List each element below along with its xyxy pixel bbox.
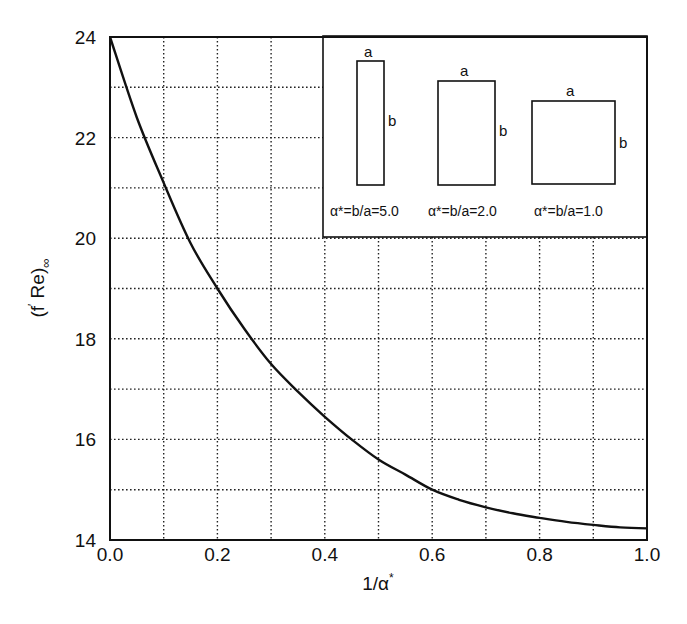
- x-tick-label: 0.6: [419, 544, 445, 565]
- x-axis-tick-labels: 0.00.20.40.60.81.0: [97, 544, 660, 565]
- side-b-label: b: [499, 122, 507, 139]
- chart: a b α*=b/a=5.0 a b α*=b/a=2.0 a b α*=b/a…: [0, 0, 687, 624]
- y-tick-label: 24: [75, 27, 97, 48]
- y-axis-title: (f′ Re)∞: [26, 258, 53, 317]
- inset-legend: a b α*=b/a=5.0 a b α*=b/a=2.0 a b α*=b/a…: [323, 36, 647, 237]
- y-tick-label: 22: [75, 128, 96, 149]
- y-tick-label: 20: [75, 228, 96, 249]
- side-a-label: a: [364, 43, 373, 60]
- legend-label: α*=b/a=5.0: [330, 203, 399, 219]
- side-b-label: b: [388, 112, 396, 129]
- y-tick-label: 16: [75, 429, 96, 450]
- x-tick-label: 1.0: [634, 544, 660, 565]
- legend-label: α*=b/a=2.0: [428, 203, 497, 219]
- x-axis-title: 1/α*: [362, 571, 394, 594]
- x-tick-label: 0.2: [204, 544, 230, 565]
- y-tick-label: 14: [75, 530, 97, 551]
- x-tick-label: 0.0: [97, 544, 123, 565]
- side-a-label: a: [460, 62, 469, 79]
- side-a-label: a: [566, 82, 575, 99]
- y-axis-tick-labels: 141618202224: [75, 27, 97, 551]
- x-tick-label: 0.4: [312, 544, 339, 565]
- y-tick-label: 18: [75, 329, 96, 350]
- legend-label: α*=b/a=1.0: [534, 203, 603, 219]
- side-b-label: b: [619, 134, 627, 151]
- x-tick-label: 0.8: [526, 544, 552, 565]
